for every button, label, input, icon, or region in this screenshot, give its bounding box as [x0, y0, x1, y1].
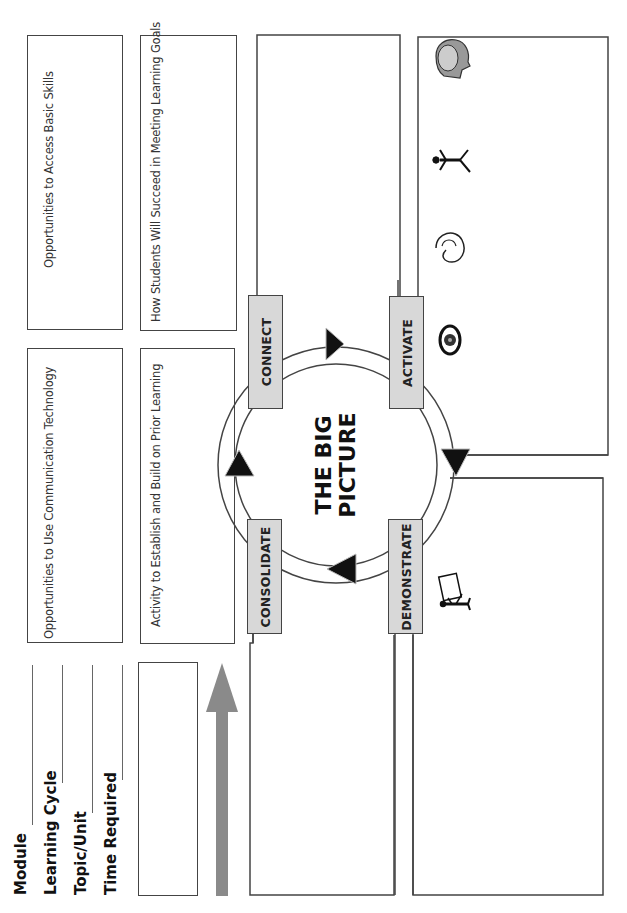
activate-notes-area[interactable]: [470, 40, 606, 452]
big-picture-line1: THE BIG: [312, 412, 336, 517]
consolidate-notes-area[interactable]: [256, 646, 392, 892]
stage-activate-label: ACTIVATE: [399, 318, 414, 386]
stage-consolidate-label: CONSOLIDATE: [257, 526, 272, 627]
presenter-easel-icon: [439, 573, 470, 610]
big-picture-line2: PICTURE: [336, 412, 360, 517]
stage-demonstrate-label: DEMONSTRATE: [398, 523, 413, 631]
brain-head-icon: [436, 40, 470, 78]
stage-activate[interactable]: ACTIVATE: [389, 296, 424, 409]
stage-connect-label: CONNECT: [258, 318, 273, 386]
eye-icon: [440, 326, 460, 354]
stage-consolidate[interactable]: CONSOLIDATE: [247, 519, 282, 634]
ear-icon: [436, 233, 464, 262]
stage-connect[interactable]: CONNECT: [248, 295, 283, 409]
progress-arrow-icon: [206, 663, 238, 896]
stage-demonstrate[interactable]: DEMONSTRATE: [388, 519, 423, 634]
connect-notes-area[interactable]: [260, 38, 398, 293]
walking-person-icon: [433, 150, 470, 172]
demonstrate-notes-area[interactable]: [480, 481, 600, 891]
